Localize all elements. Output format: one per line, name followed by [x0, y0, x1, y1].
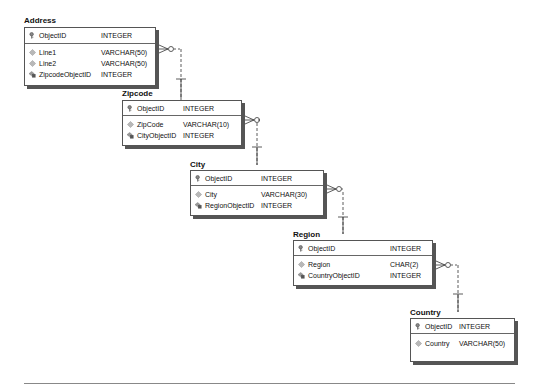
relationship-connectors [0, 0, 538, 390]
relationship-city-region[interactable] [327, 185, 348, 234]
relationship-zipcode-city[interactable] [245, 116, 262, 165]
relationship-region-country[interactable] [436, 261, 463, 312]
relationship-address-zipcode[interactable] [159, 45, 186, 100]
footer-divider [24, 383, 515, 384]
